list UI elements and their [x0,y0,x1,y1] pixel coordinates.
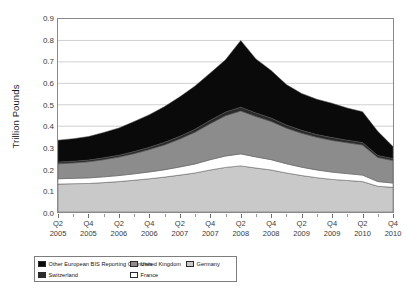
area-series-canvas [58,19,393,212]
x-axis-tick-quarter: Q4 [202,219,219,229]
x-axis-tick-Q2-2005: Q22005 [50,219,67,239]
y-axis-tick-0.9: 0.9 [28,14,54,23]
x-axis-tick-Q4-2010: Q42010 [385,219,402,239]
x-axis-tick-mark [241,214,242,218]
legend-swatch-icon [130,261,138,267]
x-axis-tick-year: 2006 [141,229,158,239]
plot-area [57,18,394,213]
legend-swatch-icon [38,272,46,278]
x-axis-tick-Q2-2010: Q22010 [354,219,371,239]
y-axis-tick-0.8: 0.8 [28,35,54,44]
x-axis-tick-quarter: Q4 [385,219,402,229]
x-axis-tick-mark [302,214,303,218]
legend-swatch-icon [130,272,138,278]
x-axis-tick-year: 2010 [385,229,402,239]
x-axis-tick-mark [180,214,181,218]
legend-swatch-icon [186,261,194,267]
legend-label: United Kingdom [141,261,182,267]
x-axis-tick-mark [58,214,59,218]
x-axis-tick-Q2-2008: Q22008 [232,219,249,239]
x-axis-tick-Q2-2007: Q22007 [171,219,188,239]
x-axis-tick-year: 2008 [263,229,280,239]
x-axis-tick-mark [363,214,364,218]
x-axis-tick-year: 2005 [80,229,97,239]
x-axis-minor-tick [104,214,105,217]
x-axis-tick-mark [332,214,333,218]
x-axis-tick-year: 2005 [50,229,67,239]
legend-label: France [141,272,159,278]
y-axis-tick-0.5: 0.5 [28,100,54,109]
x-axis-minor-tick [165,214,166,217]
stacked-area-chart-figure: Trillion Pounds 0.00.10.20.30.40.50.60.7… [0,0,417,297]
x-axis-minor-tick [317,214,318,217]
x-axis-minor-tick [226,214,227,217]
x-axis-tick-mark [88,214,89,218]
x-axis-tick-mark [210,214,211,218]
y-axis-tick-0.3: 0.3 [28,144,54,153]
legend-row: Other European BIS Reporting CountriesUn… [38,259,233,269]
x-axis-minor-tick [73,214,74,217]
x-axis-tick-Q2-2009: Q22009 [293,219,310,239]
x-axis-tick-Q4-2006: Q42006 [141,219,158,239]
x-axis-tick-quarter: Q4 [80,219,97,229]
legend-swatch-icon [38,261,46,267]
legend-item-united-kingdom[interactable]: United Kingdom [130,261,186,267]
x-axis-tick-Q4-2009: Q42009 [324,219,341,239]
legend-label: Germany [197,261,220,267]
x-axis-minor-tick [195,214,196,217]
x-axis-tick-year: 2007 [202,229,219,239]
x-axis-tick-Q2-2006: Q22006 [111,219,128,239]
legend-item-switzerland[interactable]: Switzerland [38,272,130,278]
x-axis-tick-quarter: Q2 [232,219,249,229]
x-axis-tick-quarter: Q4 [263,219,280,229]
y-axis-tick-0.6: 0.6 [28,79,54,88]
x-axis-tick-quarter: Q2 [50,219,67,229]
x-axis-tick-Q4-2007: Q42007 [202,219,219,239]
x-axis-tick-Q4-2008: Q42008 [263,219,280,239]
x-axis-tick-year: 2007 [171,229,188,239]
x-axis-tick-quarter: Q2 [354,219,371,229]
x-axis-tick-quarter: Q4 [141,219,158,229]
x-axis-tick-mark [149,214,150,218]
x-axis-tick-year: 2009 [324,229,341,239]
x-axis-minor-tick [378,214,379,217]
y-axis-tick-labels: 0.00.10.20.30.40.50.60.70.80.9 [26,0,54,297]
x-axis-tick-quarter: Q4 [324,219,341,229]
x-axis-tick-year: 2008 [232,229,249,239]
legend-label: Switzerland [49,272,78,278]
x-axis-tick-mark [271,214,272,218]
legend-item-other-european-bis-reporting-countries[interactable]: Other European BIS Reporting Countries [38,261,130,267]
x-axis-tick-year: 2009 [293,229,310,239]
x-axis-minor-tick [347,214,348,217]
x-axis-tick-quarter: Q2 [111,219,128,229]
y-axis-tick-0.0: 0.0 [28,209,54,218]
y-axis-tick-0.7: 0.7 [28,57,54,66]
x-axis-tick-quarter: Q2 [293,219,310,229]
x-axis-tick-year: 2010 [354,229,371,239]
x-axis-tick-mark [119,214,120,218]
y-axis-tick-0.2: 0.2 [28,165,54,174]
x-axis-minor-tick [134,214,135,217]
x-axis-tick-quarter: Q2 [171,219,188,229]
x-axis-tick-labels: Q22005Q42005Q22006Q42006Q22007Q42007Q220… [57,214,394,248]
legend-row: SwitzerlandFrance [38,270,233,280]
chart-legend: Other European BIS Reporting CountriesUn… [34,256,237,282]
y-axis-title-label: Trillion Pounds [11,84,22,148]
x-axis-minor-tick [256,214,257,217]
x-axis-tick-year: 2006 [111,229,128,239]
x-axis-tick-mark [393,214,394,218]
legend-item-germany[interactable]: Germany [186,261,232,267]
y-axis-tick-0.1: 0.1 [28,187,54,196]
legend-item-france[interactable]: France [130,272,186,278]
y-axis-tick-0.4: 0.4 [28,122,54,131]
x-axis-tick-Q4-2005: Q42005 [80,219,97,239]
x-axis-minor-tick [286,214,287,217]
y-axis-title: Trillion Pounds [6,18,26,214]
